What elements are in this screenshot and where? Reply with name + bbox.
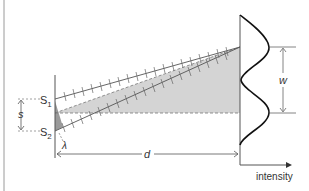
separation-label: s xyxy=(18,108,24,120)
distance-label: d xyxy=(144,148,151,160)
fringe-width-label: w xyxy=(279,74,288,86)
intensity-curve xyxy=(240,15,269,145)
intensity-label: intensity xyxy=(256,171,293,182)
wavelength-label: λ xyxy=(61,140,67,151)
source1-label: S1 xyxy=(40,94,52,109)
path-difference-wedge xyxy=(55,101,63,131)
double-slit-diagram: S1 S2 s λ d w intensity xyxy=(0,0,309,191)
source2-label: S2 xyxy=(40,126,52,141)
intensity-arrowhead xyxy=(286,162,292,168)
